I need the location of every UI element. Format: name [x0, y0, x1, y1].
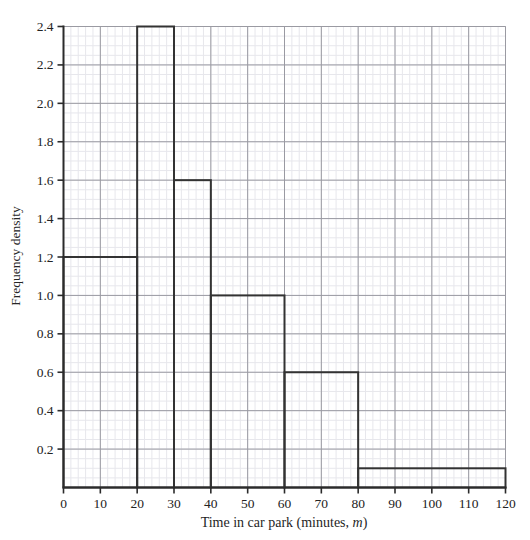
x-axis-ticks: 0102030405060708090100110120	[60, 488, 516, 511]
x-tick-label: 80	[351, 496, 365, 511]
histogram-figure: 0 ≤ m < 20 fd=1.220 ≤ m < 30 fd=2.430 ≤ …	[0, 0, 530, 540]
x-tick-label: 110	[459, 496, 479, 511]
clipped-header-text	[48, 0, 478, 6]
x-tick-label: 90	[388, 496, 402, 511]
x-tick-label: 10	[94, 496, 108, 511]
frequency-density-histogram: 0 ≤ m < 20 fd=1.220 ≤ m < 30 fd=2.430 ≤ …	[0, 0, 530, 540]
y-tick-label: 1.4	[37, 211, 54, 226]
y-tick-label: 2.4	[37, 19, 54, 34]
y-tick-label: 1.0	[37, 288, 54, 303]
y-tick-label: 2.2	[37, 57, 54, 72]
y-axis-ticks: 0.20.40.60.81.01.21.41.61.82.02.22.4	[37, 19, 64, 457]
y-tick-label: 1.2	[37, 250, 54, 265]
y-tick-label: 2.0	[37, 96, 54, 111]
x-tick-label: 100	[422, 496, 443, 511]
x-tick-label: 20	[130, 496, 144, 511]
x-axis-label-tail: )	[363, 515, 368, 531]
x-tick-label: 70	[315, 496, 329, 511]
y-tick-label: 1.8	[37, 134, 54, 149]
x-axis-label-variable: m	[353, 515, 363, 530]
y-tick-label: 0.8	[37, 326, 54, 341]
x-tick-label: 60	[278, 496, 292, 511]
x-axis-label: Time in car park (minutes, m)	[201, 515, 368, 531]
y-axis-label: Frequency density	[8, 206, 23, 306]
x-tick-label: 120	[495, 496, 516, 511]
y-tick-label: 0.2	[37, 442, 54, 457]
y-tick-label: 0.6	[37, 365, 54, 380]
x-tick-label: 40	[204, 496, 218, 511]
x-axis-label-text: Time in car park (minutes,	[201, 515, 353, 531]
x-tick-label: 50	[241, 496, 255, 511]
x-tick-label: 30	[167, 496, 181, 511]
x-tick-label: 0	[60, 496, 67, 511]
y-tick-label: 0.4	[37, 403, 54, 418]
y-tick-label: 1.6	[37, 173, 54, 188]
